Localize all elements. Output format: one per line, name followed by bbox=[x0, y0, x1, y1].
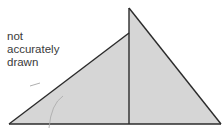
pencil-dash-mark bbox=[30, 83, 40, 86]
note-line-2: accurately bbox=[7, 43, 59, 56]
note-line-3: drawn bbox=[7, 56, 59, 69]
note-line-1: not bbox=[7, 30, 59, 43]
not-accurately-drawn-note: not accurately drawn bbox=[7, 30, 59, 69]
